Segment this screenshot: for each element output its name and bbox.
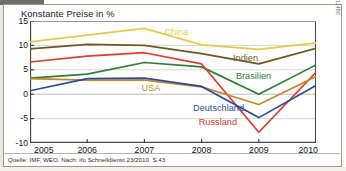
y-axis-tick-labels: 151050-5-10	[6, 21, 28, 143]
series-label-indien: Indien	[233, 53, 258, 63]
source-divider	[5, 153, 340, 154]
series-lines	[30, 28, 316, 132]
chart-figure: Konstante Preise in % 2011486 151050-5-1…	[0, 0, 346, 171]
chart-title: Konstante Preise in %	[21, 9, 115, 19]
y-tick-label: 0	[23, 90, 28, 98]
series-label-deutschland: Deutschland	[193, 103, 244, 113]
y-tick-label: 15	[18, 17, 28, 25]
y-tick-label: -10	[16, 139, 28, 147]
plot-area: ChinaIndienBrasilienRusslandUSADeutschla…	[30, 21, 316, 143]
series-label-usa: USA	[142, 83, 161, 93]
y-tick-label: -5	[20, 114, 28, 122]
series-label-brasilien: Brasilien	[236, 71, 271, 81]
figure-code-id: 2011486	[335, 0, 341, 15]
series-label-russland: Russland	[199, 117, 237, 127]
y-tick-label: 5	[23, 65, 28, 73]
scan-edge-bottom	[0, 167, 346, 171]
series-label-china: China	[164, 27, 188, 37]
y-tick-label: 10	[18, 41, 28, 49]
plot-svg	[30, 21, 316, 143]
source-note: Quelle: IMF, WEO. Nach: ifo Schnelldiens…	[8, 156, 165, 163]
